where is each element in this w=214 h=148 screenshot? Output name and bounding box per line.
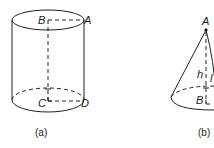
right-angle-mark [206,100,210,104]
cone-figure [171,29,214,110]
cylinder-bottom-front-arc [12,100,84,112]
cylinder-figure [12,10,84,112]
caption-b: (b) [198,127,210,138]
right-angle-mark [48,97,52,101]
label-b: B [38,14,45,26]
label-height-h: h [197,68,203,80]
label-d: D [81,97,89,109]
caption-a: (a) [35,127,47,138]
label-base-b: B [196,94,203,106]
label-slant-l: l [210,72,213,84]
geometry-figure: B A C D (a) A h l B (b) [0,0,214,148]
label-c: C [38,97,46,109]
label-a: A [83,14,91,26]
apex-dot [205,29,207,31]
label-apex-a: A [201,15,209,27]
cone-left-slant [171,30,206,97]
